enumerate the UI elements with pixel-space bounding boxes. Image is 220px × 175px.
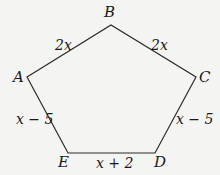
side-label-bc: 2x (151, 38, 168, 52)
side-label-de: x + 2 (96, 156, 133, 170)
vertex-label-b: B (104, 5, 115, 20)
vertex-label-c: C (199, 70, 210, 85)
vertex-label-a: A (13, 70, 24, 85)
pentagon-diagram: B A C E D 2x 2x x − 5 x − 5 x + 2 (0, 0, 220, 175)
side-label-ea: x − 5 (16, 112, 53, 126)
vertex-label-e: E (58, 155, 69, 170)
pentagon-outline (27, 25, 196, 153)
vertex-label-d: D (154, 155, 166, 170)
side-label-ab: 2x (55, 38, 72, 52)
pentagon-shape (0, 0, 220, 175)
side-label-cd: x − 5 (176, 112, 213, 126)
